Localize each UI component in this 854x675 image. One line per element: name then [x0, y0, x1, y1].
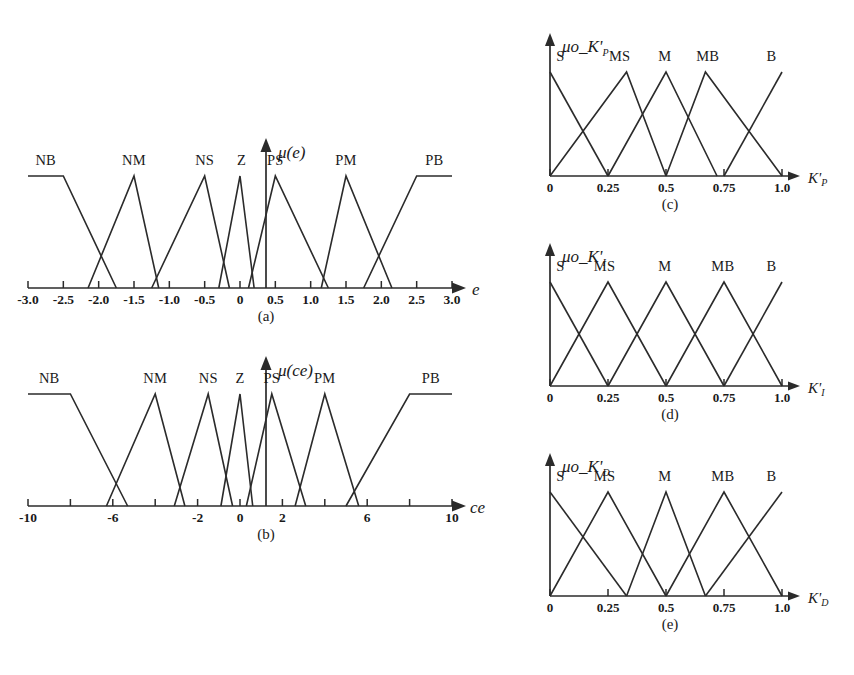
x-tick-label-a-6: 0 — [237, 292, 244, 307]
panel-d-svg: 00.250.50.751.0 SMSMMBB μo_K'I K'I — [520, 230, 854, 430]
mf-curve-d-MB — [666, 282, 782, 386]
panel-a-plot: -3.0-2.5-2.0-1.5-1.0-0.500.51.01.52.02.5… — [17, 138, 466, 307]
mf-curve-c-S — [550, 72, 608, 176]
panel-d-y-arrowhead — [545, 243, 555, 256]
panel-e-tick-labels: 00.250.50.751.0 — [547, 600, 790, 615]
x-tick-label-d-2: 0.5 — [658, 390, 675, 405]
panel-c-membership-chart: 00.250.50.751.0 SMSMMBB μo_K'P K'P (c) — [520, 20, 854, 220]
mf-curve-c-MS — [550, 72, 666, 176]
panel-b-membership-curves — [28, 394, 452, 506]
panel-d-x-axis-title: K'I — [807, 380, 825, 398]
panel-e-svg: 00.250.50.751.0 SMSMMBB μo_K'D K'D — [520, 440, 854, 640]
mf-curve-b-Z — [221, 394, 253, 506]
x-tick-label-b-2: -6 — [107, 510, 118, 525]
x-tick-label-e-0: 0 — [547, 600, 554, 615]
x-tick-label-d-1: 0.25 — [597, 390, 620, 405]
panel-c-y-axis-title: μo_K'P — [561, 37, 609, 58]
x-tick-label-d-3: 0.75 — [713, 390, 736, 405]
panel-c-ticks — [550, 169, 782, 176]
panel-b-y-axis-title: μ(ce) — [277, 361, 313, 380]
panel-a-y-arrowhead — [261, 138, 272, 152]
x-tick-label-b-10: 10 — [445, 510, 459, 525]
panel-b-plot: -10-6-202610 NBNMNSZPSPMPB — [19, 356, 466, 525]
panel-a-membership-chart: -3.0-2.5-2.0-1.5-1.0-0.500.51.01.52.02.5… — [0, 130, 500, 330]
mf-curve-a-PS — [248, 176, 328, 288]
mf-curve-b-PM — [295, 394, 359, 506]
mf-curve-c-MB — [666, 72, 782, 176]
panel-d-caption: (d) — [640, 406, 700, 423]
panel-e-membership-chart: 00.250.50.751.0 SMSMMBB μo_K'D K'D (e) — [520, 440, 854, 650]
mf-curve-e-M — [627, 492, 706, 596]
panel-a-svg: -3.0-2.5-2.0-1.5-1.0-0.500.51.01.52.02.5… — [0, 130, 500, 330]
panel-d-membership-chart: 00.250.50.751.0 SMSMMBB μo_K'I K'I (d) — [520, 230, 854, 430]
panel-a-caption: (a) — [236, 308, 296, 325]
set-label-e-M: M — [658, 468, 671, 484]
panel-c-tick-labels: 00.250.50.751.0 — [547, 180, 790, 195]
mf-curve-a-PM — [321, 176, 392, 288]
set-label-a-NS: NS — [195, 152, 214, 168]
x-tick-label-c-2: 0.5 — [658, 180, 675, 195]
x-tick-label-e-1: 0.25 — [597, 600, 620, 615]
x-tick-label-e-2: 0.5 — [658, 600, 675, 615]
x-tick-label-a-7: 0.5 — [267, 292, 284, 307]
mf-curve-e-S — [550, 492, 627, 596]
set-label-b-PB: PB — [422, 370, 440, 386]
mf-curve-a-NM — [88, 176, 159, 288]
x-tick-label-a-2: -2.0 — [88, 292, 110, 307]
panel-e-x-axis-title: K'D — [807, 590, 829, 608]
set-label-b-NS: NS — [199, 370, 218, 386]
mf-curve-c-M — [608, 72, 717, 176]
x-tick-label-b-4: -2 — [192, 510, 203, 525]
x-tick-label-b-0: -10 — [19, 510, 37, 525]
panel-e-membership-curves — [550, 492, 782, 596]
set-label-b-Z: Z — [235, 370, 244, 386]
set-label-a-PB: PB — [425, 152, 443, 168]
x-tick-label-b-6: 2 — [279, 510, 286, 525]
mf-curve-a-PB — [364, 176, 452, 288]
mf-curve-e-MS — [550, 492, 666, 596]
panel-a-membership-curves — [28, 176, 452, 288]
set-label-c-M: M — [658, 48, 671, 64]
set-label-e-B: B — [767, 468, 777, 484]
panel-a-y-axis-title: μ(e) — [277, 143, 306, 162]
mf-curve-c-B — [724, 72, 782, 176]
mf-curve-a-NS — [152, 176, 230, 288]
panel-d-tick-labels: 00.250.50.751.0 — [547, 390, 790, 405]
x-tick-label-a-8: 1.0 — [302, 292, 319, 307]
panel-a-ticks — [28, 281, 452, 288]
panel-c-plot: 00.250.50.751.0 SMSMMBB — [545, 33, 800, 195]
set-label-d-MB: MB — [711, 258, 734, 274]
set-label-a-PM: PM — [335, 152, 356, 168]
set-label-b-NB: NB — [39, 370, 60, 386]
x-tick-label-a-3: -1.5 — [123, 292, 145, 307]
x-tick-label-a-9: 1.5 — [338, 292, 355, 307]
x-tick-label-c-4: 1.0 — [774, 180, 790, 195]
x-tick-label-d-4: 1.0 — [774, 390, 790, 405]
panel-d-y-axis-title: μo_K'I — [561, 247, 607, 268]
panel-e-caption: (e) — [640, 616, 700, 633]
panel-a-x-axis-title: e — [472, 280, 480, 299]
x-tick-label-a-11: 2.5 — [408, 292, 425, 307]
x-tick-label-a-1: -2.5 — [53, 292, 75, 307]
set-label-e-MB: MB — [711, 468, 734, 484]
mf-curve-b-PB — [346, 394, 452, 506]
panel-b-svg: -10-6-202610 NBNMNSZPSPMPB μ(ce) ce — [0, 348, 500, 548]
x-tick-label-a-5: -0.5 — [194, 292, 216, 307]
panel-a-tick-labels: -3.0-2.5-2.0-1.5-1.0-0.500.51.01.52.02.5… — [17, 292, 460, 307]
set-label-a-NB: NB — [35, 152, 56, 168]
panel-e-plot: 00.250.50.751.0 SMSMMBB — [545, 453, 800, 615]
mf-curve-e-MB — [666, 492, 782, 596]
x-tick-label-a-10: 2.0 — [373, 292, 390, 307]
set-label-b-PM: PM — [314, 370, 335, 386]
panel-b-caption: (b) — [236, 526, 296, 543]
panel-c-x-axis-title: K'P — [807, 170, 827, 188]
x-tick-label-e-4: 1.0 — [774, 600, 790, 615]
set-label-c-MS: MS — [609, 48, 630, 64]
x-tick-label-b-8: 6 — [364, 510, 371, 525]
panel-c-svg: 00.250.50.751.0 SMSMMBB μo_K'P K'P — [520, 20, 854, 220]
set-label-d-M: M — [658, 258, 671, 274]
x-tick-label-c-0: 0 — [547, 180, 554, 195]
panel-c-caption: (c) — [640, 196, 700, 213]
panel-d-membership-curves — [550, 282, 782, 386]
set-label-a-NM: NM — [122, 152, 146, 168]
